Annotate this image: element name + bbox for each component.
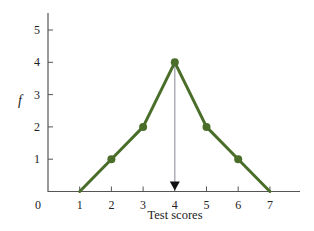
y-tick-label: 2 [34,120,40,134]
x-tick-label: 7 [267,198,273,212]
x-tick-label: 0 [35,198,41,212]
data-point [139,123,147,131]
frequency-polygon-chart: 12345 01234567 f Test scores [0,0,314,231]
x-tick-label: 5 [204,198,210,212]
y-tick-label: 1 [34,152,40,166]
data-point [171,58,179,66]
y-tick-label: 5 [34,23,40,37]
y-tick-label: 3 [34,88,40,102]
x-tick-label: 1 [77,198,83,212]
y-ticks: 12345 [34,23,53,166]
data-point [234,155,242,163]
arrow-head-icon [170,182,180,191]
data-point [203,123,211,131]
y-axis-label: f [18,93,24,108]
data-point [107,155,115,163]
y-tick-label: 4 [34,55,40,69]
x-tick-label: 2 [108,198,114,212]
axes [48,13,301,192]
x-axis-label: Test scores [147,208,202,222]
x-tick-label: 6 [235,198,241,212]
x-tick-label: 3 [140,198,146,212]
peak-arrow [170,62,180,190]
